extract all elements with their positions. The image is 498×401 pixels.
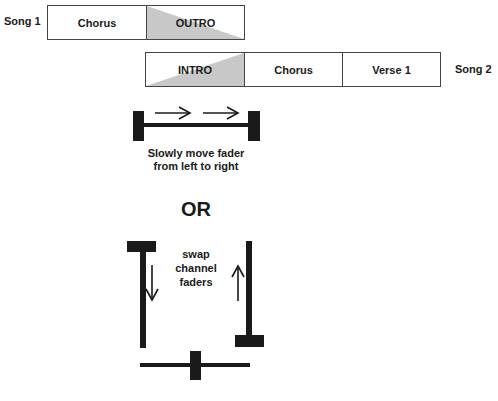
song1-segment-chorus: Chorus [48, 6, 146, 39]
song2-segment-intro: INTRO [146, 53, 244, 86]
right-arrow-icon [202, 106, 240, 120]
caption-line: swap [166, 247, 226, 261]
segment-label: Chorus [274, 64, 313, 76]
song2-segment-verse1: Verse 1 [343, 53, 440, 86]
song2-segment-chorus: Chorus [245, 53, 342, 86]
caption-line: Slowly move fader [130, 147, 262, 160]
crossfader-caption: Slowly move fader from left to right [130, 147, 262, 173]
segment-label: Chorus [78, 17, 117, 29]
song2-label: Song 2 [455, 63, 492, 75]
song1-segment-outro: OUTRO [147, 6, 244, 39]
caption-line: from left to right [130, 160, 262, 173]
right-arrow-icon [154, 106, 192, 120]
segment-label: INTRO [178, 64, 212, 76]
up-arrow-icon [231, 264, 245, 302]
caption-line: faders [166, 275, 226, 289]
song1-track: Chorus OUTRO [47, 5, 245, 40]
crossfader-left-end [133, 111, 144, 141]
down-arrow-icon [145, 264, 159, 302]
right-fader-cap [235, 335, 264, 347]
caption-line: channel [166, 261, 226, 275]
song2-track: INTRO Chorus Verse 1 [145, 52, 441, 87]
segment-label: OUTRO [176, 17, 216, 29]
crossfader-rail [144, 123, 249, 127]
right-fader-stem [246, 241, 252, 336]
or-label: OR [181, 198, 211, 221]
bottom-crossfader-knob [190, 351, 201, 380]
segment-label: Verse 1 [372, 64, 411, 76]
swap-faders-caption: swap channel faders [166, 247, 226, 289]
song1-label: Song 1 [4, 15, 41, 27]
crossfader-right-end [248, 111, 260, 141]
left-fader-cap [127, 241, 156, 252]
